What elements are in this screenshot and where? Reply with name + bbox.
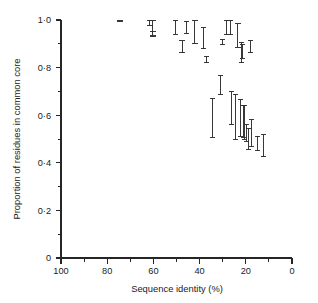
x-tick-label: 80 — [102, 266, 112, 276]
x-tick-label: 20 — [241, 266, 251, 276]
data-markers — [117, 20, 266, 157]
y-tick-label: 0·4 — [38, 158, 51, 168]
data-point-range-bar — [179, 41, 184, 53]
data-point-range-bar — [147, 20, 152, 26]
data-point-range-bar — [201, 28, 206, 49]
data-point-range-bar — [218, 75, 223, 94]
y-tick-label: 0·8 — [38, 63, 51, 73]
x-axis-title: Sequence identity (%) — [131, 283, 223, 294]
data-point-range-bar — [261, 135, 266, 157]
data-point-range-bar — [224, 20, 229, 34]
scatter-plot: 10080604020000·20·40·60·81·0 Sequence id… — [0, 0, 318, 303]
data-point-range-bar — [227, 20, 232, 35]
data-point-range-bar — [192, 20, 197, 43]
tick-labels: 10080604020000·20·40·60·81·0 — [38, 15, 295, 276]
x-tick-label: 40 — [194, 266, 204, 276]
data-point-range-bar — [239, 43, 244, 63]
data-point-range-bar — [235, 24, 240, 48]
data-point-range-bar — [249, 120, 254, 146]
x-tick-label: 60 — [148, 266, 158, 276]
data-point-range-bar — [184, 21, 189, 33]
data-point-range-bar — [229, 92, 234, 125]
data-point-range-bar — [117, 20, 122, 21]
y-tick-label: 0·2 — [38, 206, 51, 216]
y-tick-label: 0 — [46, 253, 51, 263]
data-point-range-bar — [255, 136, 260, 150]
data-point-range-bar — [204, 57, 209, 63]
data-point-range-bar — [210, 98, 215, 137]
data-point-range-bar — [173, 20, 178, 34]
y-axis-title: Proportion of residues in common core — [11, 58, 22, 219]
data-point-range-bar — [233, 94, 238, 139]
y-tick-label: 1·0 — [38, 15, 51, 25]
x-tick-label: 100 — [53, 266, 68, 276]
data-point-range-bar — [248, 41, 253, 53]
figure-container: 10080604020000·20·40·60·81·0 Sequence id… — [0, 0, 318, 303]
x-tick-label: 0 — [289, 266, 294, 276]
tick-marks — [56, 20, 293, 264]
y-tick-label: 0·6 — [38, 111, 51, 121]
data-point-range-bar — [220, 40, 225, 45]
data-point-range-bar — [238, 100, 243, 136]
data-point-range-bar — [240, 44, 245, 58]
